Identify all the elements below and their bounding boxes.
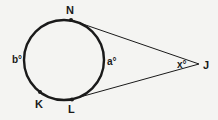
label-n: N bbox=[66, 4, 74, 16]
circle bbox=[24, 20, 104, 100]
label-l: L bbox=[68, 103, 75, 115]
arc-label-a: a° bbox=[107, 56, 117, 67]
point-k bbox=[38, 90, 42, 94]
tangent-segment-jn bbox=[74, 21, 199, 64]
point-n bbox=[69, 18, 73, 22]
angle-label-x: x° bbox=[177, 59, 187, 70]
geometry-diagram: N K L J b° a° x° bbox=[0, 0, 218, 120]
arc-label-b: b° bbox=[12, 54, 22, 65]
label-j: J bbox=[203, 59, 209, 71]
point-l bbox=[70, 98, 74, 102]
label-k: K bbox=[35, 98, 43, 110]
